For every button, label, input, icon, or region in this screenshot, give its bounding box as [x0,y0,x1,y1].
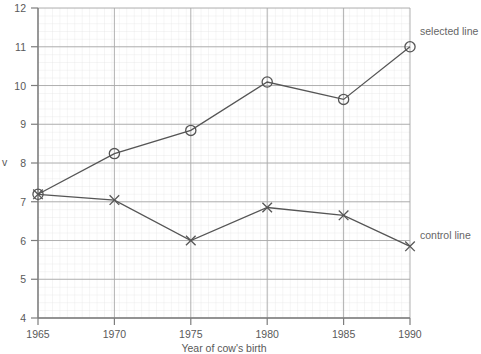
line-chart-svg: 12 11 10 9 8 7 6 5 4 1965 1970 1975 1980… [0,0,481,354]
y-tick-label: 9 [20,118,26,130]
annotation-selected-line: selected line [420,25,479,37]
x-tick-label: 1980 [256,328,280,340]
y-axis-title: v [2,156,8,168]
x-tick-label: 1990 [398,328,422,340]
y-tick-label: 8 [20,157,26,169]
x-axis-ticks [38,318,410,325]
y-axis-ticks [31,8,38,318]
x-tick-label: 1965 [26,328,50,340]
y-tick-label: 5 [20,273,26,285]
y-tick-label: 4 [20,312,26,324]
y-tick-label: 11 [15,41,26,53]
x-axis-title: Year of cow's birth [181,342,266,354]
y-tick-label: 6 [20,235,26,247]
x-tick-label: 1970 [103,328,127,340]
annotation-control-line: control line [420,229,471,241]
chart-figure: 12 11 10 9 8 7 6 5 4 1965 1970 1975 1980… [0,0,481,354]
x-axis-tick-labels: 1965 1970 1975 1980 1985 1990 [26,328,422,340]
x-tick-label: 1985 [332,328,356,340]
x-tick-label: 1975 [179,328,203,340]
y-tick-label: 12 [14,2,26,14]
y-tick-label: 10 [14,80,26,92]
y-axis-tick-labels: 12 11 10 9 8 7 6 5 4 [14,2,26,324]
y-tick-label: 7 [20,196,26,208]
